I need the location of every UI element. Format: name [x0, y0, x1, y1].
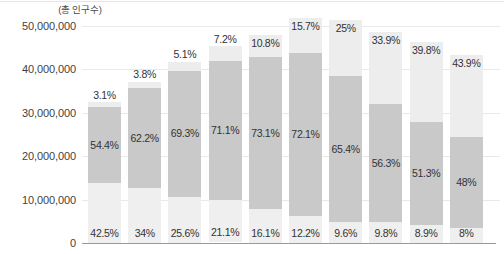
bar-segment-top[interactable]: 10.8% — [249, 35, 282, 57]
bar-segment-bottom[interactable]: 12.2% — [289, 216, 322, 243]
bar-segment-label: 65.4% — [332, 144, 360, 155]
bar-segment-middle[interactable]: 73.1% — [249, 57, 282, 209]
y-axis-tick-labels: 60,000,00050,000,00040,000,00030,000,000… — [0, 0, 76, 254]
bar-segment-label: 9.8% — [375, 228, 398, 239]
bar-segment-bottom[interactable]: 25.6% — [168, 197, 201, 243]
x-axis-baseline — [82, 243, 496, 244]
bar-segment-label: 16.1% — [251, 228, 279, 239]
bar-segment-top[interactable]: 7.2% — [209, 46, 242, 60]
bar-segment-top[interactable]: 25% — [329, 20, 362, 76]
bar-segment-middle[interactable]: 69.3% — [168, 71, 201, 197]
bar-segment-label: 54.4% — [90, 140, 118, 151]
bar-segment-label: 73.1% — [251, 128, 279, 139]
bar-segment-label: 56.3% — [372, 158, 400, 169]
bar-segment-top[interactable]: 5.1% — [168, 62, 201, 71]
bar-segment-bottom[interactable]: 9.8% — [369, 222, 402, 243]
stacked-bar-chart: (총 인구수) 60,000,00050,000,00040,000,00030… — [0, 0, 504, 254]
bar-segment-bottom[interactable]: 9.6% — [329, 222, 362, 243]
bar-segment-label: 39.8% — [412, 45, 440, 56]
bar-segment-middle[interactable]: 71.1% — [209, 61, 242, 201]
bar-segment-label: 7.2% — [214, 34, 237, 45]
bar-segment-label: 9.6% — [334, 228, 357, 239]
bar-segment-middle[interactable]: 54.4% — [88, 107, 121, 183]
bar-segment-label: 15.7% — [291, 21, 319, 32]
y-axis-tick-label: 20,000,000 — [0, 150, 76, 162]
y-axis-tick-label: 30,000,000 — [0, 107, 76, 119]
bar-column[interactable]: 5.1%69.3%25.6% — [168, 62, 201, 243]
bar-segment-label: 51.3% — [412, 168, 440, 179]
bar-segment-bottom[interactable]: 21.1% — [209, 200, 242, 241]
bar-segment-label: 62.2% — [131, 133, 159, 144]
bar-segment-middle[interactable]: 56.3% — [369, 104, 402, 223]
bar-segment-label: 21.1% — [211, 227, 239, 238]
bar-segment-label: 8% — [459, 228, 474, 239]
bar-segment-label: 72.1% — [291, 129, 319, 140]
bar-segment-label: 48% — [456, 177, 476, 188]
bar-column[interactable]: 3.1%54.4%42.5% — [88, 102, 121, 243]
bar-segment-middle[interactable]: 72.1% — [289, 53, 322, 215]
bar-segment-bottom[interactable]: 34% — [128, 188, 161, 243]
bar-column[interactable]: 7.2%71.1%21.1% — [209, 46, 242, 243]
bar-segment-top[interactable]: 43.9% — [450, 55, 483, 138]
bar-column[interactable]: 39.8%51.3%8.9% — [410, 42, 443, 243]
bar-segment-top[interactable]: 39.8% — [410, 42, 443, 122]
bar-segment-bottom[interactable]: 42.5% — [88, 183, 121, 243]
bar-segment-middle[interactable]: 65.4% — [329, 76, 362, 222]
bar-column[interactable]: 10.8%73.1%16.1% — [249, 35, 282, 243]
bar-segment-label: 69.3% — [171, 128, 199, 139]
bar-segment-label: 3.8% — [133, 69, 156, 80]
bar-segment-label: 25.6% — [171, 228, 199, 239]
bar-segment-label: 25% — [336, 23, 356, 34]
bar-column[interactable]: 15.7%72.1%12.2% — [289, 18, 322, 243]
bar-column[interactable]: 43.9%48%8% — [450, 55, 483, 243]
y-axis-tick-label: 50,000,000 — [0, 20, 76, 32]
bar-segment-middle[interactable]: 51.3% — [410, 122, 443, 225]
bar-segment-bottom[interactable]: 8% — [450, 228, 483, 243]
bar-segment-label: 71.1% — [211, 125, 239, 136]
bar-column[interactable]: 25%65.4%9.6% — [329, 20, 362, 243]
bar-segment-bottom[interactable]: 16.1% — [249, 209, 282, 243]
bar-segment-label: 43.9% — [452, 58, 480, 69]
y-axis-tick-label: 0 — [0, 237, 76, 249]
y-axis-tick-label: 40,000,000 — [0, 63, 76, 75]
bar-segment-middle[interactable]: 62.2% — [128, 88, 161, 188]
bar-segment-label: 5.1% — [174, 49, 197, 60]
bar-segment-label: 42.5% — [90, 228, 118, 239]
bar-segment-bottom[interactable]: 8.9% — [410, 225, 443, 243]
bar-segment-label: 8.9% — [415, 228, 438, 239]
bar-segment-label: 12.2% — [291, 228, 319, 239]
bar-segment-middle[interactable]: 48% — [450, 137, 483, 227]
plot-area: 3.1%54.4%42.5%3.8%62.2%34%5.1%69.3%25.6%… — [82, 0, 500, 254]
bar-segment-top[interactable]: 15.7% — [289, 18, 322, 53]
bar-column[interactable]: 3.8%62.2%34% — [128, 82, 161, 243]
bar-segment-label: 3.1% — [93, 90, 116, 101]
bar-column[interactable]: 33.9%56.3%9.8% — [369, 32, 402, 243]
bar-segment-top[interactable]: 33.9% — [369, 32, 402, 104]
bar-segment-label: 33.9% — [372, 35, 400, 46]
y-axis-tick-label: 10,000,000 — [0, 194, 76, 206]
bar-segment-label: 10.8% — [251, 38, 279, 49]
bar-segment-label: 34% — [135, 228, 155, 239]
